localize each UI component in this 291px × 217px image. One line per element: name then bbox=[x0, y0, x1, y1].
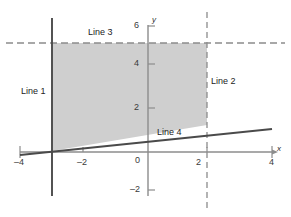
x-tick-label-pos2: 2 bbox=[196, 158, 201, 167]
x-tick-label-neg4: –4 bbox=[14, 158, 24, 167]
x-tick-label-zero: 0 bbox=[135, 156, 140, 165]
plot-canvas bbox=[0, 0, 291, 217]
x-tick-label-neg2: –2 bbox=[77, 158, 87, 167]
line-3-label: Line 3 bbox=[88, 28, 113, 37]
x-axis-label: x bbox=[277, 145, 281, 153]
line-2-label: Line 2 bbox=[211, 77, 236, 86]
y-tick-label-neg2: –2 bbox=[130, 185, 140, 194]
line-1-label: Line 1 bbox=[21, 87, 46, 96]
y-tick-label-6: 6 bbox=[134, 21, 139, 30]
feasible-region-shading bbox=[52, 43, 207, 151]
graph-figure: y x 6 4 2 –2 –4 –2 0 2 4 Line 1 Line 2 L… bbox=[0, 0, 291, 217]
line-4-label: Line 4 bbox=[157, 128, 182, 137]
y-tick-label-4: 4 bbox=[134, 59, 139, 68]
y-tick-label-2: 2 bbox=[134, 103, 139, 112]
x-tick-label-pos4: 4 bbox=[269, 158, 274, 167]
y-axis-label: y bbox=[152, 16, 156, 24]
